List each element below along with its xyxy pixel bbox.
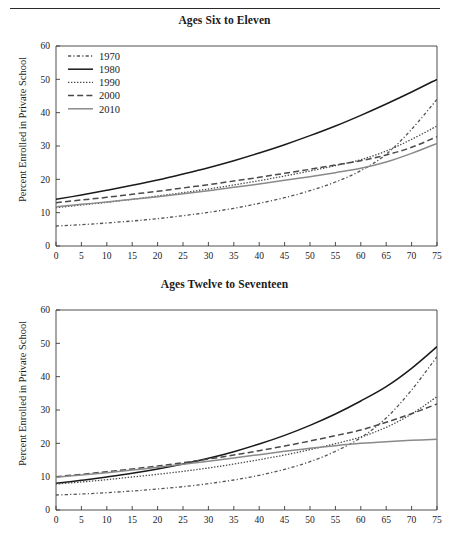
y-tick-label-top-5: 50 [41, 75, 51, 85]
y-tick-label-top-4: 40 [41, 108, 51, 118]
x-tick-label-bottom-2: 10 [102, 515, 112, 525]
x-tick-label-bottom-1: 5 [79, 515, 84, 525]
x-tick-label-bottom-11: 55 [331, 515, 341, 525]
y-tick-label-bottom-1: 10 [41, 472, 51, 482]
series-line-1970 [56, 357, 437, 495]
plot-frame [56, 46, 437, 246]
y-tick-label-bottom-6: 60 [41, 305, 51, 315]
y-tick-label-bottom-3: 30 [41, 405, 51, 415]
x-tick-label-top-9: 45 [280, 251, 290, 261]
panel-ages-six-to-eleven: Ages Six to Eleven Percent Enrolled in P… [0, 14, 449, 276]
y-tick-label-bottom-4: 40 [41, 372, 51, 382]
figure-page: Ages Six to Eleven Percent Enrolled in P… [0, 0, 449, 542]
x-tick-label-top-5: 25 [178, 251, 188, 261]
chart-svg-bottom: 0102030405060051015202530354045505560657… [0, 296, 449, 532]
y-tick-label-top-3: 30 [41, 141, 51, 151]
x-tick-label-bottom-9: 45 [280, 515, 290, 525]
x-tick-label-bottom-12: 60 [356, 515, 366, 525]
panel-title-top: Ages Six to Eleven [0, 14, 449, 26]
x-tick-label-bottom-0: 0 [54, 515, 59, 525]
x-tick-label-top-6: 30 [204, 251, 214, 261]
x-tick-label-bottom-4: 20 [153, 515, 163, 525]
x-tick-label-top-2: 10 [102, 251, 112, 261]
panel-title-bottom: Ages Twelve to Seventeen [0, 278, 449, 290]
legend-label-1970: 1970 [99, 51, 120, 62]
legend-label-2000: 2000 [99, 90, 120, 101]
legend-label-1990: 1990 [99, 77, 120, 88]
series-line-2000 [56, 137, 437, 203]
plot-area-bottom: Percent Enrolled in Private School 01020… [0, 296, 449, 532]
x-tick-label-top-0: 0 [54, 251, 59, 261]
x-tick-label-bottom-15: 75 [432, 515, 442, 525]
x-tick-label-top-12: 60 [356, 251, 366, 261]
x-tick-label-top-4: 20 [153, 251, 163, 261]
x-tick-label-bottom-8: 40 [254, 515, 264, 525]
y-tick-label-top-0: 0 [45, 241, 50, 251]
chart-svg-top: 0102030405060051015202530354045505560657… [0, 32, 449, 268]
x-tick-label-top-11: 55 [331, 251, 341, 261]
x-tick-label-top-15: 75 [432, 251, 442, 261]
chart-legend: 19701980199020002010 [68, 51, 120, 115]
x-tick-label-bottom-14: 70 [407, 515, 417, 525]
legend-label-2010: 2010 [99, 104, 120, 115]
plot-area-top: Percent Enrolled in Private School 01020… [0, 32, 449, 268]
x-tick-label-bottom-3: 15 [127, 515, 137, 525]
series-line-2000 [56, 404, 437, 477]
y-tick-label-bottom-5: 50 [41, 339, 51, 349]
x-tick-label-top-10: 50 [305, 251, 315, 261]
header-rule [10, 8, 440, 9]
x-tick-label-top-8: 40 [254, 251, 264, 261]
x-tick-label-bottom-13: 65 [381, 515, 391, 525]
series-line-2010 [56, 439, 437, 477]
y-tick-label-top-1: 10 [41, 208, 51, 218]
x-tick-label-top-14: 70 [407, 251, 417, 261]
x-tick-label-top-1: 5 [79, 251, 84, 261]
y-tick-label-bottom-0: 0 [45, 505, 50, 515]
x-tick-label-bottom-7: 35 [229, 515, 239, 525]
plot-frame [56, 310, 437, 510]
series-group [56, 347, 437, 495]
x-tick-label-top-13: 65 [381, 251, 391, 261]
x-tick-label-bottom-5: 25 [178, 515, 188, 525]
y-tick-label-bottom-2: 20 [41, 439, 51, 449]
series-line-1990 [56, 126, 437, 208]
series-line-1980 [56, 347, 437, 484]
series-line-1970 [56, 99, 437, 226]
y-axis-label-top: Percent Enrolled in Private School [17, 30, 28, 230]
x-tick-label-top-7: 35 [229, 251, 239, 261]
legend-label-1980: 1980 [99, 64, 120, 75]
x-tick-label-top-3: 15 [127, 251, 137, 261]
y-tick-label-top-2: 20 [41, 175, 51, 185]
y-axis-label-bottom: Percent Enrolled in Private School [17, 294, 28, 494]
y-tick-label-top-6: 60 [41, 41, 51, 51]
panel-ages-twelve-to-seventeen: Ages Twelve to Seventeen Percent Enrolle… [0, 278, 449, 542]
x-tick-label-bottom-6: 30 [204, 515, 214, 525]
x-tick-label-bottom-10: 50 [305, 515, 315, 525]
